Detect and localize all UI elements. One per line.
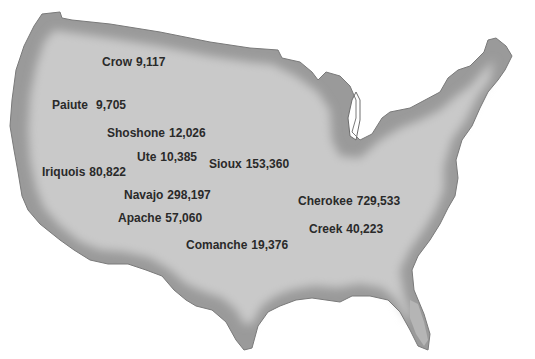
tribe-name: Navajo bbox=[124, 188, 163, 202]
label-shoshone: Shoshone12,026 bbox=[107, 126, 206, 140]
tribe-name: Paiute bbox=[52, 98, 88, 112]
label-navajo: Navajo298,197 bbox=[124, 188, 211, 202]
label-creek: Creek40,223 bbox=[309, 222, 383, 236]
us-outline-shape bbox=[0, 0, 535, 359]
tribe-name: Ute bbox=[137, 150, 156, 164]
tribe-name: Shoshone bbox=[107, 126, 165, 140]
tribe-name: Comanche bbox=[186, 238, 247, 252]
tribe-population: 57,060 bbox=[165, 211, 202, 225]
label-apache: Apache57,060 bbox=[118, 211, 202, 225]
label-sioux: Sioux153,360 bbox=[209, 157, 289, 171]
label-comanche: Comanche19,376 bbox=[186, 238, 288, 252]
label-ute: Ute10,385 bbox=[137, 150, 197, 164]
label-paiute: Paiute9,705 bbox=[52, 98, 126, 112]
tribe-population: 298,197 bbox=[167, 188, 210, 202]
tribe-name: Crow bbox=[102, 55, 132, 69]
tribe-name: Apache bbox=[118, 211, 161, 225]
us-map: Crow9,117 Paiute9,705 Shoshone12,026 Ute… bbox=[0, 0, 535, 359]
label-crow: Crow9,117 bbox=[102, 55, 165, 69]
tribe-population: 80,822 bbox=[89, 165, 126, 179]
tribe-population: 729,533 bbox=[357, 194, 400, 208]
tribe-population: 10,385 bbox=[160, 150, 197, 164]
label-cherokee: Cherokee729,533 bbox=[298, 194, 400, 208]
tribe-population: 9,705 bbox=[96, 98, 126, 112]
tribe-population: 19,376 bbox=[251, 238, 288, 252]
tribe-name: Cherokee bbox=[298, 194, 353, 208]
tribe-name: Creek bbox=[309, 222, 342, 236]
tribe-name: Iriquois bbox=[42, 165, 85, 179]
tribe-population: 12,026 bbox=[169, 126, 206, 140]
tribe-name: Sioux bbox=[209, 157, 242, 171]
tribe-population: 153,360 bbox=[246, 157, 289, 171]
tribe-population: 9,117 bbox=[136, 55, 165, 69]
tribe-population: 40,223 bbox=[346, 222, 383, 236]
label-iriquois: Iriquois80,822 bbox=[42, 165, 126, 179]
